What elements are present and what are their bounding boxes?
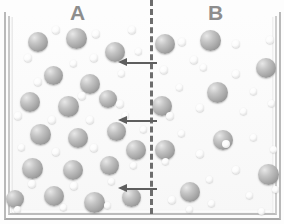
solvent-particle xyxy=(232,40,240,48)
solvent-particle xyxy=(240,108,247,115)
arrow-head-icon xyxy=(118,116,127,124)
solute-sphere xyxy=(68,128,88,148)
solvent-particle xyxy=(270,146,277,153)
solvent-particle xyxy=(118,70,125,77)
compartment-label-a: A xyxy=(70,2,85,23)
solute-sphere xyxy=(20,92,40,112)
solvent-particle xyxy=(130,162,137,169)
solvent-particle xyxy=(52,148,60,156)
arrow-head-icon xyxy=(118,184,127,192)
solvent-particle xyxy=(268,100,275,107)
solute-sphere xyxy=(28,32,48,52)
arrow-head-icon xyxy=(118,58,127,66)
flow-arrow-top xyxy=(118,58,157,67)
solute-sphere xyxy=(256,58,276,78)
solvent-particle xyxy=(48,116,56,124)
solvent-particle xyxy=(176,84,183,91)
solvent-particle xyxy=(160,66,168,74)
arrow-shaft xyxy=(125,120,157,122)
solvent-particle xyxy=(128,26,136,34)
arrow-shaft xyxy=(125,188,157,190)
container-left-gloss xyxy=(10,17,13,213)
solvent-particle xyxy=(266,36,274,44)
solute-sphere xyxy=(66,28,87,49)
solute-sphere xyxy=(258,164,279,185)
solvent-particle xyxy=(166,112,174,120)
solvent-particle xyxy=(206,176,213,183)
solute-sphere xyxy=(155,34,175,54)
solvent-particle xyxy=(272,186,279,193)
solvent-particle xyxy=(200,64,207,71)
solvent-particle xyxy=(250,88,257,95)
solvent-particle xyxy=(18,144,25,151)
solvent-particle xyxy=(90,144,98,152)
flow-arrow-bottom xyxy=(118,184,157,193)
osmosis-diagram: A B xyxy=(0,0,284,224)
solute-sphere xyxy=(63,160,83,180)
solute-sphere xyxy=(30,124,51,145)
flow-arrow-middle xyxy=(118,116,157,125)
solute-sphere xyxy=(22,158,43,179)
compartment-label-b: B xyxy=(208,2,223,23)
solvent-particle xyxy=(162,158,169,165)
solvent-particle xyxy=(258,208,265,215)
solute-sphere xyxy=(180,182,200,202)
solvent-particle xyxy=(70,182,78,190)
solvent-particle xyxy=(232,70,240,78)
solvent-particle xyxy=(14,206,21,213)
solvent-particle xyxy=(60,204,67,211)
solvent-particle xyxy=(178,130,185,137)
solvent-particle xyxy=(78,92,86,100)
solvent-particle xyxy=(28,180,36,188)
solute-sphere xyxy=(99,90,117,108)
solute-sphere xyxy=(126,140,146,160)
solute-sphere xyxy=(207,82,228,103)
solute-sphere xyxy=(200,30,221,51)
solvent-particle xyxy=(92,30,100,38)
solvent-particle xyxy=(196,150,204,158)
arrow-shaft xyxy=(125,62,157,64)
solvent-particle xyxy=(34,78,42,86)
solute-sphere xyxy=(80,74,100,94)
solvent-particle xyxy=(116,100,124,108)
solvent-particle xyxy=(232,166,240,174)
solvent-particle xyxy=(90,54,98,62)
solvent-particle xyxy=(52,26,60,34)
solvent-particle xyxy=(86,116,94,124)
semipermeable-membrane xyxy=(150,0,153,214)
solvent-particle xyxy=(168,196,176,204)
container-floor-gloss xyxy=(12,209,270,212)
solute-sphere xyxy=(6,190,24,208)
solvent-particle xyxy=(196,104,204,112)
solvent-particle xyxy=(190,56,198,64)
solute-sphere xyxy=(58,96,79,117)
solvent-particle xyxy=(104,202,111,209)
solvent-particle xyxy=(140,126,147,133)
solvent-particle xyxy=(14,112,22,120)
solute-sphere xyxy=(44,186,64,206)
solvent-particle xyxy=(70,60,77,67)
solvent-particle xyxy=(246,192,253,199)
solvent-particle xyxy=(178,38,186,46)
solvent-particle xyxy=(208,200,215,207)
solvent-particle xyxy=(135,48,142,55)
solute-sphere xyxy=(155,140,175,160)
solvent-particle xyxy=(186,206,193,213)
solvent-particle xyxy=(250,134,257,141)
solvent-particle xyxy=(24,54,32,62)
solute-sphere xyxy=(44,66,63,85)
solvent-particle xyxy=(222,140,230,148)
solvent-particle xyxy=(108,178,115,185)
solute-sphere xyxy=(84,192,105,213)
solute-sphere xyxy=(100,156,119,175)
